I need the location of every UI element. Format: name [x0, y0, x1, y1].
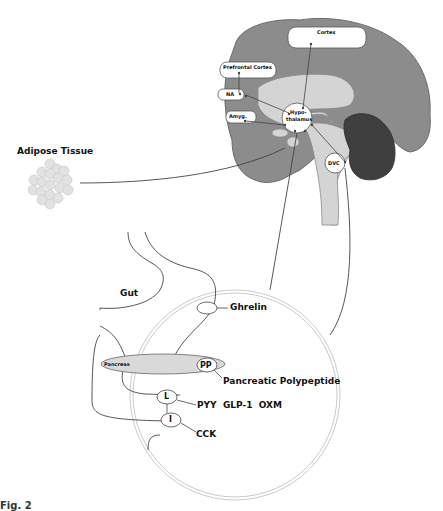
- label-pp: PP: [200, 361, 212, 370]
- label-na: NA: [226, 91, 234, 97]
- pituitary-shape: [272, 129, 288, 137]
- label-ghrelin: Ghrelin: [230, 302, 267, 312]
- label-amygdala: Amyg.: [229, 113, 247, 119]
- i-cell-pointer: [181, 423, 196, 432]
- label-hypothalamus-1: Hypo-: [290, 109, 307, 115]
- label-l-cell: L: [164, 392, 169, 401]
- label-cck: CCK: [196, 429, 216, 439]
- label-dvc: DVC: [328, 160, 340, 166]
- pituitary-lobe-shape: [287, 137, 299, 147]
- label-pancreatic-polypeptide: Pancreatic Polypeptide: [223, 376, 340, 386]
- label-adipose-tissue: Adipose Tissue: [17, 146, 93, 156]
- label-hypothalamus-2: thalamus: [286, 116, 312, 122]
- label-pancreas: Pancreas: [104, 361, 130, 367]
- pp-pointer: [214, 370, 222, 378]
- label-cortex: Cortex: [317, 29, 336, 35]
- label-l-hormones: PYY GLP-1 OXM: [197, 400, 282, 410]
- figure-caption: Fig. 2: [0, 500, 32, 511]
- label-gut: Gut: [120, 288, 138, 298]
- label-i-cell: I: [169, 415, 172, 424]
- l-cell-pointer: [177, 400, 196, 405]
- adipose-tissue-cluster: [28, 159, 73, 209]
- label-prefrontal-cortex: Prefrontal Cortex: [223, 64, 272, 70]
- ghrelin-cell: [197, 302, 217, 314]
- gut-outline: [92, 232, 216, 450]
